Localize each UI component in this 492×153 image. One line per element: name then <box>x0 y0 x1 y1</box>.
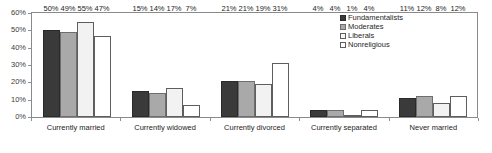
bar-value-label: 4% <box>330 5 341 13</box>
bar-value-label: 12% <box>450 5 465 13</box>
y-axis-tick-label: 50% <box>11 27 26 35</box>
bar-slot: 12% <box>416 13 433 117</box>
y-axis-tick-label: 10% <box>11 96 26 104</box>
bar-value-label: 15% <box>132 5 147 13</box>
bar[interactable]: 11% <box>399 98 416 117</box>
bar[interactable]: 21% <box>238 81 255 117</box>
bar-slot: 4% <box>310 13 327 117</box>
bar[interactable]: 17% <box>166 88 183 117</box>
legend-swatch-icon <box>340 42 346 48</box>
y-axis-tick-label: 30% <box>11 61 26 69</box>
bar-value-label: 49% <box>60 5 75 13</box>
x-axis-ticks <box>31 118 478 122</box>
legend-swatch-icon <box>340 33 346 39</box>
y-axis-tick-label: 60% <box>11 9 26 17</box>
bar[interactable]: 1% <box>344 115 361 117</box>
bar[interactable]: 12% <box>450 96 467 117</box>
bar-value-label: 21% <box>221 5 236 13</box>
bar-value-label: 31% <box>272 5 287 13</box>
bar[interactable]: 50% <box>43 30 60 117</box>
x-axis-category-label: Currently divorced <box>210 124 299 132</box>
bar-slot: 19% <box>255 13 272 117</box>
bar[interactable]: 4% <box>361 110 378 117</box>
bar-groups-container: 50%49%55%47%15%14%17%7%21%21%19%31%4%4%1… <box>32 13 477 117</box>
legend-label: Moderates <box>348 23 383 31</box>
bar[interactable]: 47% <box>94 36 111 117</box>
bar-group: 15%14%17%7% <box>121 13 210 117</box>
legend-label: Fundamentalists <box>348 14 403 22</box>
bar[interactable]: 7% <box>183 105 200 117</box>
bar-group: 21%21%19%31% <box>210 13 299 117</box>
bar-value-label: 11% <box>400 5 414 13</box>
bar-value-label: 4% <box>313 5 324 13</box>
legend-item[interactable]: Moderates <box>340 23 403 31</box>
bar-slot: 47% <box>94 13 111 117</box>
bar[interactable]: 4% <box>327 110 344 117</box>
bar-slot: 49% <box>60 13 77 117</box>
bar-value-label: 14% <box>149 5 164 13</box>
bar[interactable]: 12% <box>416 96 433 117</box>
bar[interactable]: 14% <box>149 93 166 117</box>
legend-swatch-icon <box>340 15 346 21</box>
x-axis-tick-mark <box>120 118 121 121</box>
legend-item[interactable]: Fundamentalists <box>340 14 403 22</box>
x-axis-tick-mark <box>389 118 390 121</box>
legend-item[interactable]: Liberals <box>340 32 403 40</box>
bar-value-label: 12% <box>416 5 431 13</box>
bar[interactable]: 8% <box>433 103 450 117</box>
legend-label: Liberals <box>348 32 374 40</box>
bar-slot: 17% <box>166 13 183 117</box>
bar[interactable]: 4% <box>310 110 327 117</box>
x-axis-tick-mark <box>478 118 479 121</box>
bar-value-label: 17% <box>166 5 181 13</box>
bar[interactable]: 21% <box>221 81 238 117</box>
legend-item[interactable]: Nonreligious <box>340 41 403 49</box>
bar[interactable]: 15% <box>132 91 149 117</box>
x-axis-category-label: Currently widowed <box>120 124 209 132</box>
y-axis: 60%50%40%30%20%10%0% <box>0 12 31 118</box>
bar-slot: 12% <box>450 13 467 117</box>
bar-value-label: 8% <box>436 5 447 13</box>
bar-slot: 21% <box>238 13 255 117</box>
x-axis-tick-mark <box>299 118 300 121</box>
x-axis-category-label: Currently married <box>31 124 120 132</box>
legend-swatch-icon <box>340 24 346 30</box>
bar-slot: 21% <box>221 13 238 117</box>
bar-value-label: 1% <box>347 5 358 13</box>
bar-slot: 31% <box>272 13 289 117</box>
bar-value-label: 55% <box>77 5 92 13</box>
bar[interactable]: 49% <box>60 32 77 117</box>
bar-slot: 7% <box>183 13 200 117</box>
x-axis-tick-mark <box>31 118 32 121</box>
x-axis-category-label: Currently separated <box>299 124 388 132</box>
bar-group: 50%49%55%47% <box>32 13 121 117</box>
x-axis: Currently marriedCurrently widowedCurren… <box>31 118 478 148</box>
bar-value-label: 7% <box>186 5 197 13</box>
bar-slot: 15% <box>132 13 149 117</box>
y-axis-tick-label: 20% <box>11 79 26 87</box>
bar[interactable]: 55% <box>77 22 94 117</box>
bar-value-label: 47% <box>94 5 109 13</box>
bar-slot: 14% <box>149 13 166 117</box>
bar[interactable]: 31% <box>272 63 289 117</box>
x-axis-labels: Currently marriedCurrently widowedCurren… <box>31 124 478 132</box>
x-axis-tick-mark <box>210 118 211 121</box>
bar-value-label: 50% <box>43 5 58 13</box>
y-axis-tick-label: 0% <box>15 113 26 121</box>
chart-legend: FundamentalistsModeratesLiberalsNonrelig… <box>340 14 403 49</box>
x-axis-category-label: Never married <box>389 124 478 132</box>
bar-slot: 55% <box>77 13 94 117</box>
bar[interactable]: 19% <box>255 84 272 117</box>
legend-label: Nonreligious <box>348 41 390 49</box>
bar-value-label: 19% <box>255 5 270 13</box>
bar-value-label: 4% <box>364 5 375 13</box>
bar-slot: 50% <box>43 13 60 117</box>
bar-chart: 60%50%40%30%20%10%0% 50%49%55%47%15%14%1… <box>0 0 492 153</box>
y-axis-tick-label: 40% <box>11 44 26 52</box>
bar-value-label: 21% <box>238 5 253 13</box>
bar-slot: 8% <box>433 13 450 117</box>
